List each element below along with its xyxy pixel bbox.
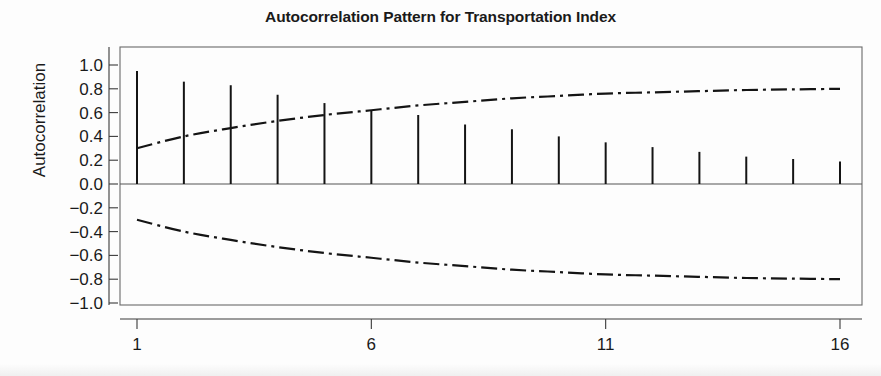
y-axis-ticks: 1.00.80.60.40.20.0−0.2−0.4−0.6−0.8−1.0 xyxy=(69,56,118,313)
y-tick-label: 0.8 xyxy=(79,80,103,99)
page-edge-shadow xyxy=(0,364,881,376)
x-tick-label: 11 xyxy=(597,335,615,354)
y-tick-label: 0.6 xyxy=(79,104,103,123)
acf-plot-area: 1.00.80.60.40.20.0−0.2−0.4−0.6−0.8−1.0 1… xyxy=(0,0,881,376)
y-tick-label: −1.0 xyxy=(69,294,103,313)
y-tick-label: 1.0 xyxy=(79,56,103,75)
x-tick-label: 16 xyxy=(831,335,850,354)
x-tick-label: 6 xyxy=(367,335,376,354)
x-tick-label: 1 xyxy=(132,335,141,354)
y-tick-label: 0.4 xyxy=(79,127,103,146)
y-tick-label: −0.4 xyxy=(69,223,103,242)
chart-figure: Autocorrelation Pattern for Transportati… xyxy=(0,0,881,376)
y-tick-label: −0.2 xyxy=(69,199,103,218)
y-tick-label: −0.6 xyxy=(69,246,103,265)
y-tick-label: 0.2 xyxy=(79,151,103,170)
y-tick-label: −0.8 xyxy=(69,270,103,289)
confidence-band-line xyxy=(137,89,840,149)
x-axis-ticks: 161116 xyxy=(132,319,849,354)
confidence-band-line xyxy=(137,220,840,280)
acf-spike-series xyxy=(137,71,840,184)
y-tick-label: 0.0 xyxy=(79,175,103,194)
